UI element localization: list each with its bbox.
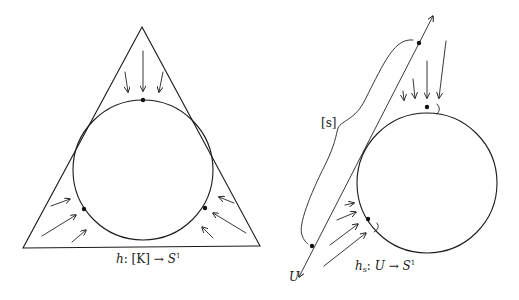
diagram-canvas: h: [K] → S1 [s] U hs:	[0, 0, 519, 300]
inscribed-circle	[73, 100, 213, 240]
circle	[357, 113, 497, 253]
lower-right-arrows	[202, 197, 246, 238]
left-caption: h: [K] → S1	[116, 252, 180, 266]
lower-left-arrows	[324, 203, 366, 266]
line-point-top	[417, 41, 421, 45]
right-caption: hs: U → S1	[355, 259, 415, 274]
marked-point-left	[82, 207, 86, 211]
brace-label: [s]	[321, 116, 337, 130]
line-point-bottom	[310, 244, 314, 248]
circle-point-top	[425, 105, 429, 109]
marked-point-right	[203, 206, 207, 210]
direction-tick-left	[374, 223, 378, 232]
lower-left-arrows	[42, 199, 86, 242]
top-arrows	[125, 51, 163, 92]
tangent-line-u	[299, 16, 433, 277]
line-label-u: U	[289, 270, 300, 284]
brace-s	[301, 40, 413, 244]
direction-tick-top	[437, 104, 440, 114]
triangle	[23, 27, 260, 248]
circle-point-left	[366, 217, 370, 221]
left-figure: h: [K] → S1	[23, 27, 260, 266]
top-arrows	[403, 41, 446, 100]
right-figure: [s] U hs: U → S1	[289, 16, 497, 284]
marked-point-top	[141, 98, 145, 102]
